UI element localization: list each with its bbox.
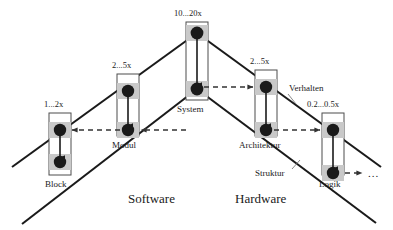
node-logik-dot-struktur[interactable]	[327, 167, 339, 179]
node-logik-dot-verhalten[interactable]	[327, 124, 339, 136]
node-modul-dot-verhalten[interactable]	[122, 85, 134, 97]
node-label-block: Block	[45, 180, 67, 189]
rail-struktur-right	[197, 89, 376, 223]
y-chart-diagram	[0, 0, 393, 230]
node-label-architektur: Architektur	[239, 141, 280, 150]
node-modul[interactable]	[117, 74, 139, 138]
rail-verhalten-right	[197, 33, 381, 167]
ratio-label-modul: 2...5x	[112, 61, 131, 70]
ratio-label-architektur: 2...5x	[250, 57, 269, 66]
node-label-logik: Logik	[319, 180, 341, 189]
node-system-dot-struktur[interactable]	[191, 83, 204, 96]
node-architektur-dot-verhalten[interactable]	[260, 81, 272, 93]
node-system-dot-verhalten[interactable]	[191, 27, 204, 40]
node-label-system: System	[177, 105, 204, 114]
node-label-modul: Modul	[112, 141, 136, 150]
domain-label-software: Software	[128, 192, 175, 205]
domain-label-hardware: Hardware	[235, 192, 286, 205]
edge-label-struktur: Struktur	[255, 169, 285, 178]
ratio-label-block: 1...2x	[44, 100, 63, 109]
edge-label-verhalten: Verhalten	[289, 84, 323, 93]
node-modul-dot-struktur[interactable]	[122, 124, 134, 136]
node-block[interactable]	[49, 113, 71, 175]
node-block-dot-verhalten[interactable]	[54, 124, 66, 136]
node-architektur-dot-struktur[interactable]	[260, 124, 272, 136]
node-system[interactable]	[186, 22, 208, 100]
node-block-dot-struktur[interactable]	[54, 156, 66, 168]
node-architektur[interactable]	[255, 70, 277, 138]
ratio-label-logik: 0.2...0.5x	[307, 100, 339, 109]
rail-verhalten-left	[12, 33, 197, 167]
continuation-ellipsis: ...	[368, 168, 379, 179]
ratio-label-system: 10...20x	[174, 9, 202, 18]
node-logik[interactable]	[322, 113, 344, 181]
